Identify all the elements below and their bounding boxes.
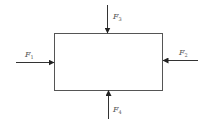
force-f1-label: F1 bbox=[24, 50, 34, 60]
force-f4-label: F4 bbox=[112, 105, 122, 115]
force-f3-label: F3 bbox=[112, 12, 122, 22]
body-rectangle bbox=[55, 34, 163, 91]
force-f2-label: F2 bbox=[178, 48, 188, 58]
force-diagram: F3 F4 F1 F2 bbox=[0, 0, 211, 126]
